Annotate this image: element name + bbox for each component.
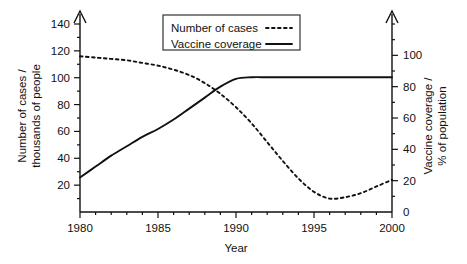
right-axis-tick-label: 40 (403, 143, 416, 155)
right-axis-tick-label: 0 (403, 206, 409, 218)
chart-container: 19801985199019952000Year2040608010012014… (0, 0, 467, 264)
right-axis-tick-label: 100 (403, 49, 422, 61)
left-axis-tick-label: 80 (57, 99, 70, 111)
x-axis-title: Year (224, 242, 247, 254)
left-axis-tick-label: 100 (51, 72, 70, 84)
left-axis-tick-label: 120 (51, 45, 70, 57)
legend-label-vaccine-coverage: Vaccine coverage (171, 38, 262, 50)
right-axis-title-line1: Vaccine coverage / (422, 77, 434, 175)
left-axis-tick-label: 140 (51, 18, 70, 30)
right-axis-title-line2: % of population (436, 86, 448, 165)
x-axis-tick-label: 1980 (67, 222, 93, 234)
legend-label-number-of-cases: Number of cases (171, 22, 258, 34)
right-axis-tick-label: 20 (403, 175, 416, 187)
left-axis-title-line1: Number of cases / (16, 69, 28, 163)
left-axis-title-line2: thousands of people (30, 64, 42, 168)
right-axis-tick-label: 60 (403, 112, 416, 124)
series-line-vaccine-coverage (80, 77, 392, 177)
left-axis-tick-label: 60 (57, 125, 70, 137)
x-axis-tick-label: 1990 (223, 222, 249, 234)
left-axis-tick-label: 40 (57, 152, 70, 164)
x-axis-tick-label: 1985 (145, 222, 171, 234)
line-chart: 19801985199019952000Year2040608010012014… (0, 0, 467, 264)
x-axis-tick-label: 2000 (379, 222, 405, 234)
x-axis-tick-label: 1995 (301, 222, 327, 234)
right-axis-tick-label: 80 (403, 81, 416, 93)
left-axis-tick-label: 20 (57, 179, 70, 191)
